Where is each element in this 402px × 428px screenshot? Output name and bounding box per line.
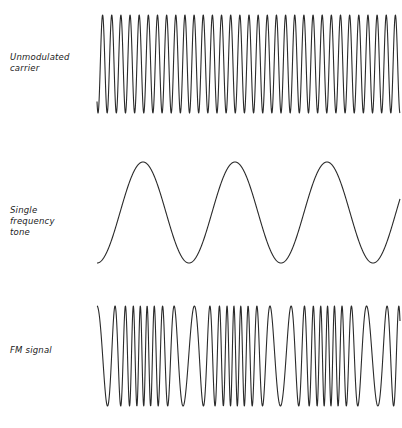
single-frequency-tone-waveform xyxy=(97,162,400,263)
waveform-canvas xyxy=(0,0,402,428)
unmodulated-carrier-waveform xyxy=(97,15,400,113)
fm-signal-waveform xyxy=(97,306,400,406)
